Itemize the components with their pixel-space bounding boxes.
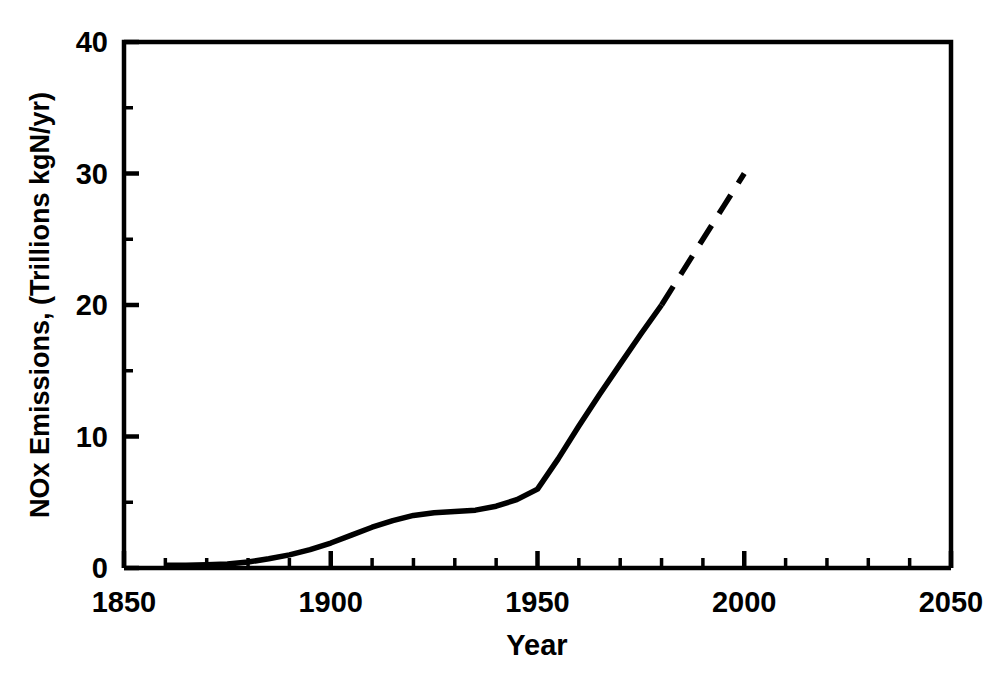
y-axis-title: NOx Emissions, (Trillions kgN/yr) (25, 92, 55, 518)
y-tick-label: 30 (76, 158, 108, 190)
y-axis-tick-labels: 010203040 (76, 26, 108, 584)
chart-figure: 010203040 18501900195020002050 NOx Emiss… (0, 0, 1004, 687)
x-tick-label: 1950 (505, 586, 570, 618)
x-tick-label: 2000 (712, 586, 777, 618)
data-line-historical (165, 305, 661, 565)
y-tick-label: 40 (76, 26, 108, 58)
x-axis-tick-labels: 18501900195020002050 (92, 586, 984, 618)
y-tick-label: 10 (76, 421, 108, 453)
x-tick-label: 1850 (92, 586, 157, 618)
x-tick-label: 1900 (298, 586, 363, 618)
x-tick-label: 2050 (919, 586, 984, 618)
x-axis-title: Year (506, 629, 567, 661)
y-tick-label: 0 (92, 552, 108, 584)
data-series-group (165, 174, 744, 566)
data-line-projected (662, 174, 745, 306)
chart-svg: 010203040 18501900195020002050 NOx Emiss… (0, 0, 1004, 687)
y-tick-label: 20 (76, 289, 108, 321)
